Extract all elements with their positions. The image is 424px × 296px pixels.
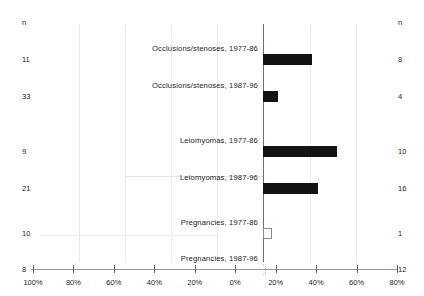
x-axis-tick-label: 60% bbox=[106, 278, 121, 287]
right-n-value: 10 bbox=[398, 147, 406, 156]
x-axis-tick-label: 40% bbox=[309, 278, 324, 287]
x-axis-tick-label: 100% bbox=[23, 278, 42, 287]
bar bbox=[263, 228, 272, 239]
right-n-value: 4 bbox=[398, 92, 402, 101]
x-axis-tick-label: 20% bbox=[268, 278, 283, 287]
bar-category-label: Leiomyomas, 1977-86 bbox=[0, 136, 258, 145]
x-axis-tick bbox=[316, 265, 317, 273]
table-row: Occlusions/stenoses, 1987-96334 bbox=[0, 79, 424, 117]
bar-category-label: Occlusions/stenoses, 1977-86 bbox=[0, 44, 258, 53]
table-row: Occlusions/stenoses, 1977-86118 bbox=[0, 42, 424, 80]
x-axis-tick bbox=[33, 265, 34, 273]
x-axis-tick bbox=[357, 265, 358, 273]
x-axis-tick-label: 60% bbox=[349, 278, 364, 287]
bar bbox=[263, 54, 312, 65]
left-n-value: 21 bbox=[22, 184, 30, 193]
x-axis-tick bbox=[114, 265, 115, 273]
x-axis-tick bbox=[397, 265, 398, 273]
bar-category-label: Pregnancies, 1977-86 bbox=[0, 218, 258, 227]
x-axis-tick bbox=[276, 265, 277, 273]
x-axis-tick bbox=[154, 265, 155, 273]
bar bbox=[263, 183, 318, 194]
bar bbox=[263, 91, 278, 102]
x-axis: 100%80%60%40%20%0%20%40%60%80% bbox=[0, 262, 424, 296]
left-n-value: 9 bbox=[22, 147, 26, 156]
left-n-value: 33 bbox=[22, 92, 30, 101]
table-row: Leiomyomas, 1977-86910 bbox=[0, 134, 424, 172]
left-n-value: 11 bbox=[22, 55, 30, 64]
x-axis-tick bbox=[73, 265, 74, 273]
x-axis-tick-label: 40% bbox=[147, 278, 162, 287]
bar-category-label: Leiomyomas, 1987-96 bbox=[0, 173, 258, 182]
table-row: Pregnancies, 1977-86101 bbox=[0, 216, 424, 254]
x-axis-tick-label: 0% bbox=[230, 278, 241, 287]
x-axis-line bbox=[31, 269, 398, 270]
right-n-value: 16 bbox=[398, 184, 406, 193]
left-n-value: 10 bbox=[22, 229, 30, 238]
bar-category-label: Occlusions/stenoses, 1987-96 bbox=[0, 81, 258, 90]
table-row: Leiomyomas, 1987-962116 bbox=[0, 171, 424, 209]
x-axis-tick-label: 80% bbox=[66, 278, 81, 287]
x-axis-tick-label: 80% bbox=[389, 278, 404, 287]
x-axis-tick-label: 20% bbox=[187, 278, 202, 287]
right-n-value: 1 bbox=[398, 229, 402, 238]
butterfly-chart: n n Occlusions/stenoses, 1977-86118Occlu… bbox=[0, 0, 424, 296]
x-axis-tick bbox=[235, 265, 236, 273]
bar bbox=[263, 146, 337, 157]
x-axis-tick bbox=[195, 265, 196, 273]
right-n-value: 8 bbox=[398, 55, 402, 64]
plot-area: Occlusions/stenoses, 1977-86118Occlusion… bbox=[0, 24, 424, 262]
